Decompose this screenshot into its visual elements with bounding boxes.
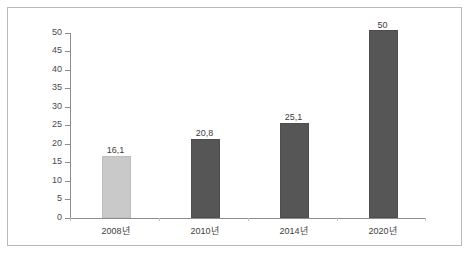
y-tick-mark (65, 33, 70, 34)
y-tick-label-45: 45 (30, 46, 62, 55)
x-tick-mark (70, 218, 71, 221)
y-tick-label-30: 30 (30, 102, 62, 111)
y-tick-mark (65, 88, 70, 89)
y-tick-label-0: 0 (30, 213, 62, 222)
y-tick-label-50: 50 (30, 28, 62, 37)
x-axis-label-2010: 2010년 (179, 226, 230, 236)
y-tick-label-40: 40 (30, 65, 62, 74)
x-tick-mark (337, 218, 338, 221)
bar-2008 (102, 156, 131, 218)
y-tick-mark (65, 162, 70, 163)
value-label-2010: 20,8 (181, 129, 228, 138)
x-tick-mark (159, 218, 160, 221)
y-tick-label-20: 20 (30, 139, 62, 148)
y-tick-label-5: 5 (30, 194, 62, 203)
x-tick-mark (425, 218, 426, 221)
y-tick-label-15: 15 (30, 157, 62, 166)
bar-2020 (369, 30, 398, 218)
y-axis-line (70, 33, 71, 219)
y-tick-mark (65, 144, 70, 145)
value-label-2014: 25,1 (270, 113, 317, 122)
y-tick-mark (65, 51, 70, 52)
y-tick-label-25: 25 (30, 120, 62, 129)
x-axis-label-2020: 2020년 (357, 226, 408, 236)
value-label-2008: 16,1 (92, 146, 139, 155)
y-tick-mark (65, 181, 70, 182)
y-tick-mark (65, 70, 70, 71)
y-tick-mark (65, 199, 70, 200)
x-axis-label-2008: 2008년 (90, 226, 141, 236)
x-tick-mark (248, 218, 249, 221)
x-axis-label-2014: 2014년 (268, 226, 319, 236)
chart-figure: 50 45 40 35 30 25 20 15 10 5 0 16 (0, 0, 471, 254)
value-label-2020: 50 (359, 21, 406, 30)
plot-area: 50 45 40 35 30 25 20 15 10 5 0 16 (0, 0, 471, 254)
y-tick-label-10: 10 (30, 176, 62, 185)
bar-2010 (191, 139, 220, 218)
y-tick-label-35: 35 (30, 83, 62, 92)
y-tick-mark (65, 125, 70, 126)
y-tick-mark (65, 107, 70, 108)
bar-2014 (280, 123, 309, 218)
